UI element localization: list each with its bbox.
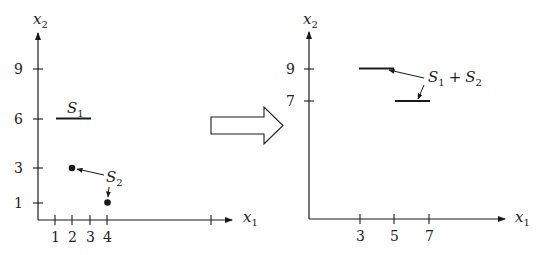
left-x-tick-label: 3	[86, 229, 95, 245]
sum-label: S1+S2	[428, 68, 482, 88]
right-x-tick-label: 3	[356, 228, 365, 244]
s2-point-2-3	[69, 165, 76, 172]
left-x-tick-label: 4	[103, 229, 112, 245]
left-y-tick-label: 6	[14, 111, 23, 127]
s2-leader-arrow	[108, 187, 109, 197]
left-y-tick-label: 9	[14, 61, 23, 77]
right-y-tick-label: 9	[286, 61, 295, 77]
right-plot: x2 x1 9 7 3 5 7 S1+S2	[286, 10, 530, 244]
sum-leader-arrow	[389, 70, 424, 78]
left-y-axis-label: x2	[33, 10, 48, 30]
left-y-tick-label: 1	[14, 195, 23, 211]
right-x-axis-label: x1	[515, 208, 530, 228]
left-x-tick-label: 1	[51, 229, 60, 245]
left-x-axis-label: x1	[243, 208, 258, 228]
minkowski-sum-diagram: x2 x1 9 6 3 1 1 2 3 4 S1 S2 x2	[0, 0, 542, 255]
s1-label: S1	[67, 99, 84, 119]
transform-arrow-icon	[211, 107, 283, 144]
sum-leader-arrow	[418, 85, 424, 99]
s2-point-4-1	[104, 199, 111, 206]
left-y-tick-label: 3	[14, 160, 23, 176]
right-x-tick-label: 5	[390, 228, 399, 244]
right-x-tick-label: 7	[425, 228, 434, 244]
s2-label: S2	[106, 168, 123, 188]
right-y-tick-label: 7	[286, 93, 295, 109]
left-x-tick-label: 2	[68, 229, 77, 245]
right-y-axis-label: x2	[303, 10, 318, 30]
s2-leader-arrow	[77, 169, 104, 175]
